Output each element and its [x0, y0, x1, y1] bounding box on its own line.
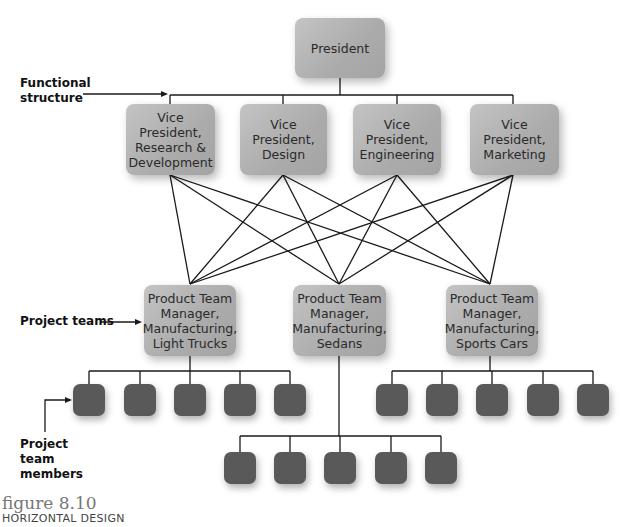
team-member-sports-cars: [476, 384, 508, 416]
vp-design-box: Vice President, Design: [240, 104, 327, 175]
team-member-sports-cars: [376, 384, 408, 416]
team-member-light-trucks: [274, 384, 306, 416]
team-member-sedans: [274, 452, 306, 484]
team-member-light-trucks: [174, 384, 206, 416]
team-member-sports-cars: [426, 384, 458, 416]
ptm-label: Product Team Manager, Manufacturing, Sed…: [292, 291, 387, 351]
vp-research-development-box: Vice President, Research & Development: [126, 104, 215, 175]
project-teams-label: Project teams: [20, 314, 114, 329]
vp-marketing-box: Vice President, Marketing: [470, 104, 559, 175]
connector-lines: [0, 0, 628, 527]
team-member-light-trucks: [224, 384, 256, 416]
team-member-sedans: [224, 452, 256, 484]
vp-label: Vice President, Marketing: [483, 117, 545, 162]
team-member-sedans: [324, 452, 356, 484]
project-team-members-label: Project team members: [20, 437, 83, 482]
vp-label: Vice President, Engineering: [360, 117, 435, 162]
vp-label: Vice President, Research & Development: [128, 110, 212, 170]
ptm-light-trucks-box: Product Team Manager, Manufacturing, Lig…: [144, 285, 236, 356]
team-member-light-trucks: [124, 384, 156, 416]
team-member-sedans: [425, 452, 457, 484]
ptm-label: Product Team Manager, Manufacturing, Lig…: [143, 291, 238, 351]
team-member-sports-cars: [577, 384, 609, 416]
figure-title: HORIZONTAL DESIGN: [2, 512, 125, 525]
president-label: President: [311, 41, 369, 56]
team-member-light-trucks: [73, 384, 105, 416]
vp-label: Vice President, Design: [252, 117, 314, 162]
ptm-label: Product Team Manager, Manufacturing, Spo…: [445, 291, 540, 351]
president-box: President: [295, 18, 385, 78]
functional-structure-label: Functional structure: [20, 76, 91, 106]
figure-number: figure 8.10: [2, 493, 97, 513]
vp-engineering-box: Vice President, Engineering: [353, 104, 441, 175]
team-member-sports-cars: [527, 384, 559, 416]
ptm-sports-cars-box: Product Team Manager, Manufacturing, Spo…: [446, 285, 538, 356]
ptm-sedans-box: Product Team Manager, Manufacturing, Sed…: [293, 285, 386, 356]
team-member-sedans: [375, 452, 407, 484]
